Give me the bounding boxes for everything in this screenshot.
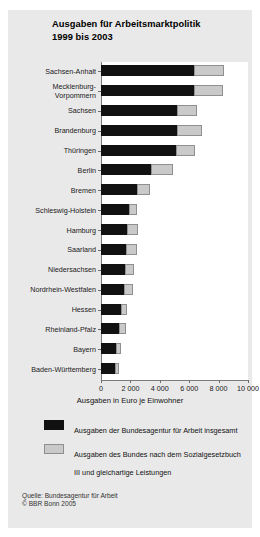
bar-segment-bundesagentur — [101, 224, 127, 235]
value-axis-tick-label: 6 000 — [180, 384, 198, 393]
legend-swatch-light — [44, 444, 64, 454]
legend-label-bundesagentur: Ausgaben der Bundesagentur für Arbeit in… — [74, 426, 237, 435]
bar-segment-bundesagentur — [101, 125, 177, 136]
bar-segment-bundesagentur — [101, 145, 176, 156]
bar-segment-bund-sgb3 — [177, 125, 203, 136]
bar-segment-bundesagentur — [101, 343, 116, 354]
value-axis-tick-label: 8 000 — [210, 384, 228, 393]
bar-segment-bund-sgb3 — [127, 224, 138, 235]
category-label: Sachsen — [68, 107, 96, 115]
category-label: Rheinland-Pfalz — [45, 326, 96, 334]
category-label: Schleswig-Holstein — [35, 207, 96, 215]
bar-segment-bundesagentur — [101, 304, 121, 315]
legend-item-bundesagentur: Ausgaben der Bundesagentur für Arbeit in… — [44, 419, 244, 437]
bar-segment-bundesagentur — [101, 85, 194, 96]
bar-segment-bundesagentur — [101, 164, 151, 175]
bar-segment-bundesagentur — [101, 244, 126, 255]
bar-segment-bundesagentur — [101, 65, 194, 76]
bar-segment-bundesagentur — [101, 204, 129, 215]
bar-segment-bundesagentur — [101, 264, 125, 275]
bar-segment-bund-sgb3 — [124, 284, 133, 295]
value-axis-tick — [101, 380, 102, 383]
value-axis-tick — [189, 380, 190, 383]
bar-segment-bund-sgb3 — [121, 304, 127, 315]
value-axis-tick-label: 10 000 — [237, 384, 259, 393]
category-label: Nordrhein-Westfalen — [30, 286, 96, 294]
value-axis-tick — [248, 380, 249, 383]
bar-segment-bund-sgb3 — [129, 204, 137, 215]
category-axis-labels: Sachsen-AnhaltMecklenburg-VorpommernSach… — [0, 62, 96, 380]
footer-copyright: © BBR Bonn 2005 — [22, 500, 232, 508]
chart-title: Ausgaben für Arbeitsmarktpolitik 1999 bi… — [52, 18, 242, 43]
category-label: Sachsen-Anhalt — [45, 68, 96, 76]
value-axis-tick — [130, 380, 131, 383]
value-axis-tick-label: 0 — [99, 384, 103, 393]
bar-segment-bund-sgb3 — [126, 244, 137, 255]
value-axis-tick-label: 2 000 — [121, 384, 139, 393]
category-label: Hessen — [72, 306, 96, 314]
bar-segment-bund-sgb3 — [177, 105, 198, 116]
legend-label-bund-sgb3: Ausgaben des Bundes nach dem Sozialgeset… — [74, 450, 241, 477]
legend-swatch-dark — [44, 420, 64, 430]
category-label: Saarland — [67, 246, 96, 254]
bar-segment-bund-sgb3 — [194, 85, 223, 96]
value-axis-tick — [219, 380, 220, 383]
bar-segment-bund-sgb3 — [151, 164, 173, 175]
bar-segment-bund-sgb3 — [194, 65, 224, 76]
category-label: Thüringen — [64, 147, 96, 155]
bar-segment-bund-sgb3 — [115, 363, 119, 374]
category-label: Berlin — [78, 167, 96, 175]
category-label: Baden-Württemberg — [31, 366, 96, 374]
footer-source: Quelle: Bundesagentur für Arbeit — [22, 492, 232, 500]
category-label: Mecklenburg-Vorpommern — [52, 83, 96, 100]
category-label: Bremen — [71, 187, 96, 195]
bar-segment-bund-sgb3 — [119, 323, 126, 334]
bar-segment-bundesagentur — [101, 184, 137, 195]
category-label: Niedersachsen — [48, 266, 96, 274]
bar-segment-bund-sgb3 — [125, 264, 134, 275]
chart-footer: Quelle: Bundesagentur für Arbeit © BBR B… — [22, 492, 232, 509]
bar-segment-bund-sgb3 — [176, 145, 195, 156]
category-label: Brandenburg — [54, 127, 96, 135]
bar-segment-bund-sgb3 — [116, 343, 120, 354]
bar-segment-bundesagentur — [101, 323, 119, 334]
chart-title-line-1: Ausgaben für Arbeitsmarktpolitik — [52, 18, 242, 31]
bar-segment-bundesagentur — [101, 105, 177, 116]
category-label: Hamburg — [66, 227, 96, 235]
legend-item-bund-sgb3: Ausgaben des Bundes nach dem Sozialgeset… — [44, 443, 244, 479]
plot-area — [101, 62, 248, 380]
infographic-figure: Ausgaben für Arbeitsmarktpolitik 1999 bi… — [0, 0, 260, 537]
chart-title-line-2: 1999 bis 2003 — [52, 31, 242, 44]
bar-segment-bundesagentur — [101, 284, 124, 295]
bar-segment-bund-sgb3 — [137, 184, 150, 195]
chart-legend: Ausgaben der Bundesagentur für Arbeit in… — [44, 419, 244, 485]
category-label: Bayern — [73, 346, 96, 354]
bar-segment-bundesagentur — [101, 363, 115, 374]
value-axis-title: Ausgaben in Euro je Einwohner — [8, 396, 252, 405]
value-axis-tick-label: 4 000 — [151, 384, 169, 393]
value-axis-tick — [160, 380, 161, 383]
